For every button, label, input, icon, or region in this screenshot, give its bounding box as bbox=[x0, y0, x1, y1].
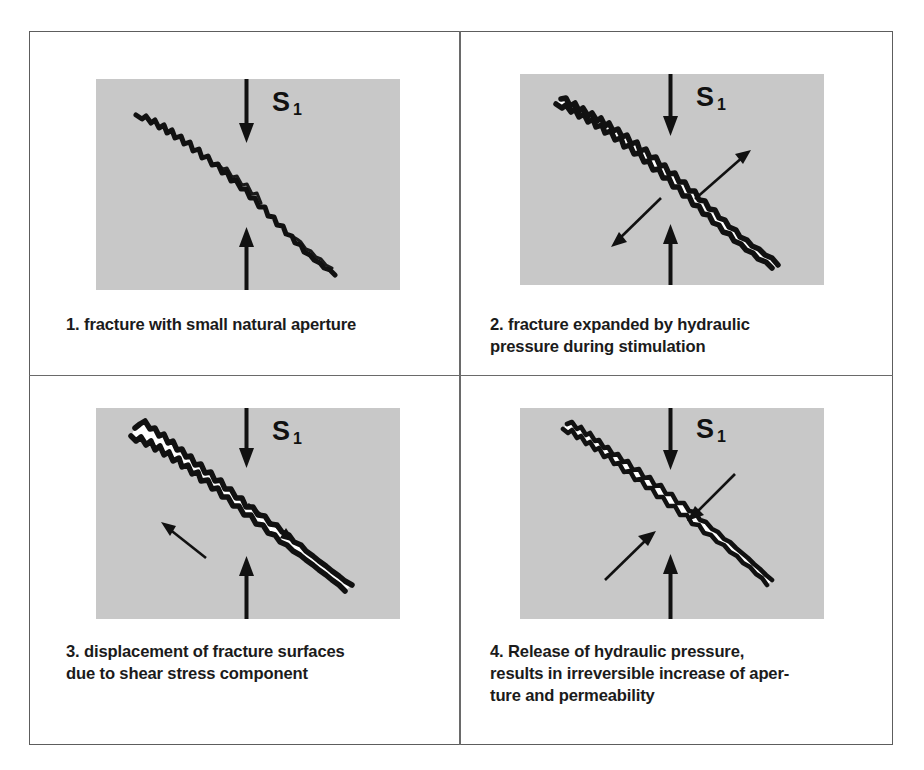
panel-4-caption: 4. Release of hydraulic pressure, result… bbox=[490, 641, 890, 707]
closure-arrow-from-lower-left bbox=[605, 531, 656, 580]
stress-arrow-top bbox=[663, 74, 678, 136]
fracture-aperture-sheared bbox=[131, 421, 352, 591]
stress-symbol: S bbox=[272, 87, 290, 117]
stress-arrow-bottom bbox=[663, 554, 678, 619]
fracture-trace-closed bbox=[136, 115, 335, 275]
stress-arrow-top bbox=[663, 408, 678, 470]
stress-symbol: S bbox=[696, 414, 714, 444]
stress-subscript: 1 bbox=[290, 430, 302, 447]
illustration-panel-1: S1 bbox=[96, 79, 400, 290]
panel-3-caption: 3. displacement of fracture surfaces due… bbox=[66, 641, 458, 685]
stress-label-s1: S1 bbox=[272, 89, 302, 118]
stress-subscript: 1 bbox=[714, 96, 726, 113]
panel-2-expanded-fracture: S1 2. fracture expanded by hydraulic pre… bbox=[461, 31, 893, 375]
stress-arrow-top bbox=[239, 408, 254, 468]
panel-1-closed-fracture: S1 1. fracture with small natural apertu… bbox=[29, 31, 459, 375]
illustration-panel-3: S1 bbox=[96, 408, 400, 619]
stress-symbol: S bbox=[272, 416, 290, 446]
shear-arrow-up-left bbox=[161, 522, 206, 558]
fracture-trace-residual-aperture bbox=[563, 422, 772, 585]
illustration-panel-2: S1 bbox=[520, 74, 824, 285]
panel-4-released-fracture: S1 4. Release of hydraulic pressure, res… bbox=[461, 377, 893, 745]
stress-arrow-bottom bbox=[663, 224, 678, 285]
stress-subscript: 1 bbox=[714, 428, 726, 445]
stress-label-s1: S1 bbox=[272, 418, 302, 447]
dilation-arrow-lower-left bbox=[611, 198, 661, 247]
illustration-panel-4: S1 bbox=[520, 408, 824, 619]
panel-2-caption: 2. fracture expanded by hydraulic pressu… bbox=[490, 314, 882, 358]
closure-arrow-from-upper-right bbox=[687, 474, 735, 521]
stress-arrow-bottom bbox=[239, 227, 254, 290]
stress-arrow-top bbox=[239, 79, 254, 143]
panel-1-caption: 1. fracture with small natural aperture bbox=[66, 314, 446, 336]
stress-arrow-bottom bbox=[239, 556, 254, 619]
stress-symbol: S bbox=[696, 82, 714, 112]
stress-subscript: 1 bbox=[290, 101, 302, 118]
stress-label-s1: S1 bbox=[696, 416, 726, 445]
figure-root: S1 1. fracture with small natural apertu… bbox=[0, 0, 924, 770]
stress-label-s1: S1 bbox=[696, 84, 726, 113]
dilation-arrow-upper-right bbox=[695, 150, 751, 199]
panel-3-sheared-fracture: S1 3. displacement of fracture surfaces … bbox=[29, 377, 459, 745]
